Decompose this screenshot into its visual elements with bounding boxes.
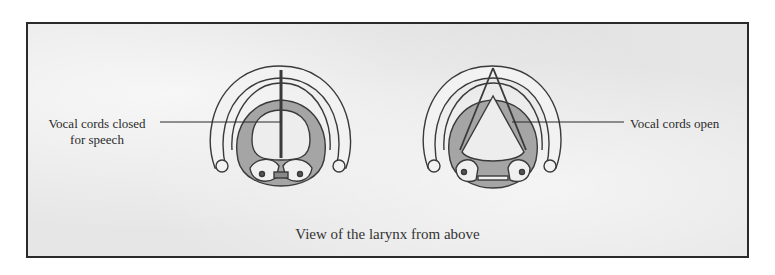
label-vocal-cords-closed: Vocal cords closed for speech (38, 116, 156, 148)
larynx-open-drawing (423, 66, 561, 188)
larynx-closed-drawing (210, 66, 350, 186)
label-vocal-cords-open: Vocal cords open (630, 116, 719, 132)
label-closed-line2: for speech (38, 132, 156, 148)
label-closed-line1: Vocal cords closed (38, 116, 156, 132)
figure-caption: View of the larynx from above (0, 226, 775, 243)
